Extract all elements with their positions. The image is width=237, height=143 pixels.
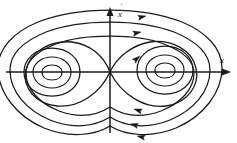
right-center-orbits xyxy=(137,46,193,94)
axes-group xyxy=(6,7,231,133)
right-orbit-1 xyxy=(155,63,175,78)
separatrix-group xyxy=(25,42,196,107)
y-axis-label-dot-accent: ˙ xyxy=(120,2,123,12)
phase-portrait-figure: x x ˙ xyxy=(0,0,237,143)
x-axis-label: x xyxy=(219,55,224,65)
x-axis-arrowhead xyxy=(222,69,231,76)
flow-arrow-lower-1 xyxy=(133,107,142,114)
flow-arrow-upper-2 xyxy=(133,29,142,36)
y-axis-arrowhead xyxy=(107,7,114,16)
right-orbit-3 xyxy=(137,46,193,94)
phase-portrait-canvas: x x ˙ xyxy=(0,0,237,143)
flow-arrow-upper-1 xyxy=(138,13,147,20)
right-orbit-2 xyxy=(146,55,184,86)
